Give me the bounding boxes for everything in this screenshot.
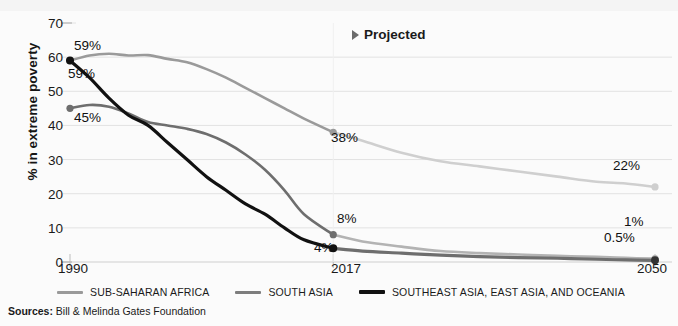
series-path <box>70 105 333 235</box>
legend-label: SOUTH ASIA <box>268 286 333 298</box>
x-tick-2017: 2017 <box>331 261 361 276</box>
y-tick-50: 50 <box>33 84 63 99</box>
x-tick-marks <box>70 23 655 268</box>
legend-item-sub-saharan-africa[interactable]: SUB-SAHARAN AFRICA <box>57 286 209 298</box>
chart-legend: SUB-SAHARAN AFRICA SOUTH ASIA SOUTHEAST … <box>0 282 678 302</box>
series-path <box>70 54 333 133</box>
y-tick-60: 60 <box>33 50 63 65</box>
projected-label: Projected <box>364 27 426 42</box>
label-sa-2050: 1% <box>624 214 644 229</box>
y-tick-labels: 70 60 50 40 30 20 10 0 <box>33 0 63 276</box>
series-path <box>70 61 333 249</box>
label-ssa-start: 59% <box>74 38 101 53</box>
chart-figure: % in extreme poverty 70 60 50 40 30 20 1… <box>0 0 678 326</box>
label-sa-start: 45% <box>74 110 101 125</box>
projected-annotation: Projected <box>352 27 426 42</box>
y-tick-10: 10 <box>33 221 63 236</box>
legend-swatch-icon <box>359 290 385 294</box>
label-sea-2017: 4% <box>314 240 334 255</box>
label-ssa-2050: 22% <box>613 158 640 173</box>
y-tick-70: 70 <box>33 16 63 31</box>
label-sea-start: 59% <box>68 66 95 81</box>
legend-swatch-icon <box>57 291 83 294</box>
data-point-dot <box>330 231 337 238</box>
series-lines <box>70 54 655 261</box>
y-tick-40: 40 <box>33 118 63 133</box>
legend-item-south-asia[interactable]: SOUTH ASIA <box>235 286 333 298</box>
label-ssa-2017: 38% <box>331 130 358 145</box>
x-tick-2050: 2050 <box>637 261 667 276</box>
sources-label: Sources: <box>8 305 53 317</box>
legend-label: SOUTHEAST ASIA, EAST ASIA, AND OCEANIA <box>392 286 625 298</box>
plot-area: % in extreme poverty 70 60 50 40 30 20 1… <box>0 0 678 276</box>
x-tick-1990: 1990 <box>58 261 88 276</box>
data-point-dot <box>66 57 74 65</box>
sources-line: Sources: Bill & Melinda Gates Foundation <box>8 305 206 317</box>
y-tick-30: 30 <box>33 153 63 168</box>
label-sa-2017: 8% <box>337 211 357 226</box>
sources-text: Bill & Melinda Gates Foundation <box>53 305 206 317</box>
label-sea-2050: 0.5% <box>604 230 635 245</box>
y-tick-20: 20 <box>33 187 63 202</box>
legend-swatch-icon <box>235 291 261 294</box>
series-endpoint-dots <box>66 57 659 265</box>
legend-item-southeast-asia-east-asia-oceania[interactable]: SOUTHEAST ASIA, EAST ASIA, AND OCEANIA <box>359 286 625 298</box>
data-point-dot <box>66 105 73 112</box>
data-point-dot <box>651 183 658 190</box>
legend-label: SUB-SAHARAN AFRICA <box>90 286 209 298</box>
play-triangle-icon <box>352 30 359 40</box>
